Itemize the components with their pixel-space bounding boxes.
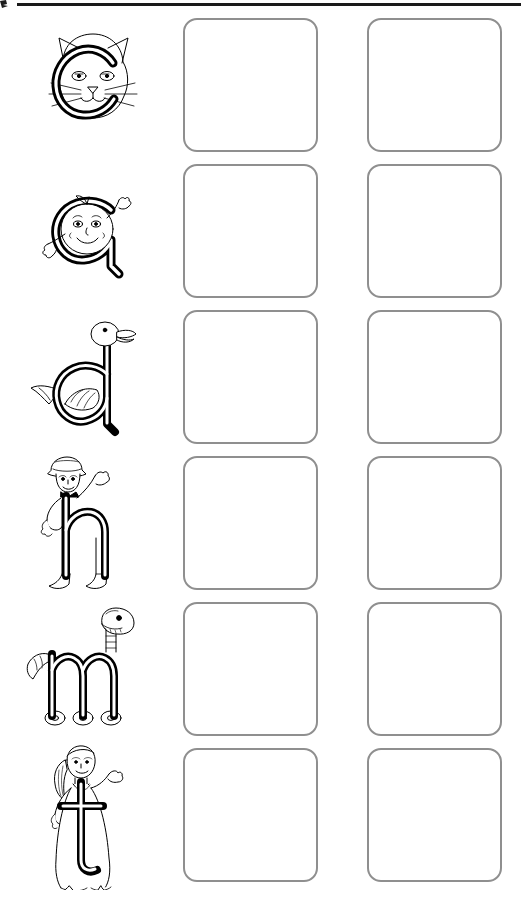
monster-letter-m-icon — [22, 604, 147, 734]
answer-box-a-1[interactable] — [183, 164, 318, 298]
worksheet-page — [0, 0, 521, 907]
letter-illustration-cell-d — [0, 304, 168, 450]
worksheet-row — [0, 12, 521, 158]
answer-box-c-1[interactable] — [183, 18, 318, 152]
answer-box-t-2[interactable] — [367, 748, 502, 882]
letter-illustration-cell-c — [0, 12, 168, 158]
hat-man-letter-h-icon — [29, 448, 139, 598]
letter-illustration-cell-h — [0, 450, 168, 596]
letter-illustration-cell-t — [0, 742, 168, 888]
worksheet-rows — [0, 12, 521, 888]
worksheet-row — [0, 742, 521, 888]
answer-box-d-1[interactable] — [183, 310, 318, 444]
answer-box-d-2[interactable] — [367, 310, 502, 444]
top-divider-rule — [17, 3, 521, 6]
apple-face-letter-a-icon — [29, 166, 139, 296]
tall-girl-letter-t-icon — [29, 740, 139, 890]
worksheet-row — [0, 304, 521, 450]
worksheet-row — [0, 158, 521, 304]
answer-box-a-2[interactable] — [367, 164, 502, 298]
answer-box-m-1[interactable] — [183, 602, 318, 736]
answer-box-h-1[interactable] — [183, 456, 318, 590]
answer-box-t-1[interactable] — [183, 748, 318, 882]
answer-box-c-2[interactable] — [367, 18, 502, 152]
cat-letter-c-icon — [29, 20, 139, 150]
letter-illustration-cell-m — [0, 596, 168, 742]
corner-crop-mark — [0, 0, 9, 9]
worksheet-row — [0, 450, 521, 596]
worksheet-row — [0, 596, 521, 742]
letter-illustration-cell-a — [0, 158, 168, 304]
duck-letter-d-icon — [29, 312, 139, 442]
answer-box-h-2[interactable] — [367, 456, 502, 590]
answer-box-m-2[interactable] — [367, 602, 502, 736]
